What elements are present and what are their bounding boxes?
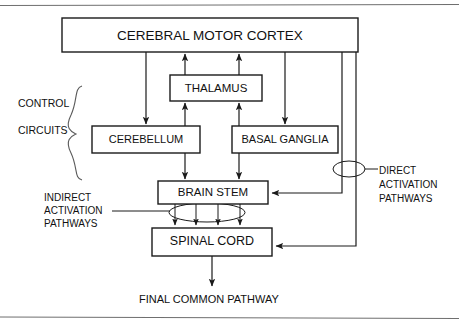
control-circuits-brace bbox=[68, 86, 82, 180]
indirect-activation-label-line3: PATHWAYS bbox=[44, 218, 98, 229]
diagram-figure: CEREBRAL MOTOR CORTEX THALAMUS CEREBELLU… bbox=[0, 0, 459, 328]
final-common-pathway-label: FINAL COMMON PATHWAY bbox=[139, 293, 279, 305]
control-circuits-label-line1: CONTROL bbox=[18, 97, 69, 109]
node-cerebellum[interactable]: CEREBELLUM bbox=[92, 126, 200, 153]
direct-activation-label-line3: PATHWAYS bbox=[379, 193, 433, 204]
direct-activation-label-line1: DIRECT bbox=[379, 165, 416, 176]
indirect-pathways-grouping-ellipse bbox=[169, 203, 245, 222]
node-label-brain-stem: BRAIN STEM bbox=[178, 186, 248, 198]
control-circuits-label-line2: CIRCUITS bbox=[18, 124, 68, 136]
diagram-canvas: CEREBRAL MOTOR CORTEX THALAMUS CEREBELLU… bbox=[0, 0, 459, 328]
node-cerebral-motor-cortex[interactable]: CEREBRAL MOTOR CORTEX bbox=[62, 18, 358, 52]
node-label-thalamus: THALAMUS bbox=[185, 82, 248, 94]
node-thalamus[interactable]: THALAMUS bbox=[170, 75, 262, 101]
top-rule bbox=[0, 5, 459, 6]
node-spinal-cord[interactable]: SPINAL CORD bbox=[152, 228, 272, 256]
bottom-rule bbox=[0, 317, 459, 319]
node-label-spinal-cord: SPINAL CORD bbox=[170, 234, 254, 248]
direct-pathways-grouping-ellipse bbox=[333, 161, 365, 177]
node-label-basal-ganglia: BASAL GANGLIA bbox=[241, 133, 329, 145]
direct-activation-label-line2: ACTIVATION bbox=[379, 179, 438, 190]
indirect-activation-label-line2: ACTIVATION bbox=[44, 205, 103, 216]
indirect-activation-label-line1: INDIRECT bbox=[44, 192, 91, 203]
edge-cortex-to-brain-stem-direct bbox=[272, 52, 342, 193]
node-basal-ganglia[interactable]: BASAL GANGLIA bbox=[232, 126, 338, 153]
node-brain-stem[interactable]: BRAIN STEM bbox=[158, 181, 268, 204]
node-label-cerebral-motor-cortex: CEREBRAL MOTOR CORTEX bbox=[117, 28, 303, 43]
node-label-cerebellum: CEREBELLUM bbox=[109, 133, 184, 145]
